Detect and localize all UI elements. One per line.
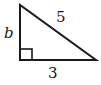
right-angle-marker bbox=[20, 49, 32, 60]
horizontal-leg-label: 3 bbox=[48, 64, 58, 82]
hypotenuse-label: 5 bbox=[56, 8, 66, 26]
triangle-diagram: 5 b 3 bbox=[0, 0, 101, 85]
vertical-leg-label: b bbox=[4, 24, 14, 42]
